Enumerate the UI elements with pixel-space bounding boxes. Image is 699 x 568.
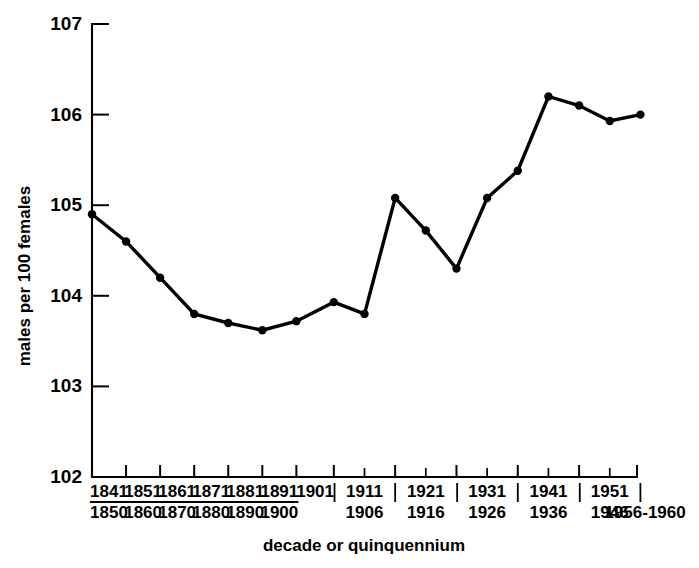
data-point — [544, 92, 552, 100]
data-point — [156, 273, 164, 281]
x-tick-top-label: 1861 — [158, 482, 196, 501]
data-point — [224, 319, 232, 327]
data-point — [514, 167, 522, 175]
x-tick-bottom-label: 1916 — [407, 503, 445, 522]
x-tick-bottom-label: 1850 — [90, 503, 128, 522]
y-axis-title: males per 100 females — [15, 186, 34, 367]
series-markers — [88, 92, 645, 334]
x-axis-bottom-labels: 1850186018701880189019001906191619261936… — [90, 503, 686, 522]
data-point — [292, 317, 300, 325]
x-tick-bottom-label: 1926 — [468, 503, 506, 522]
x-tick-top-label: 1931 — [468, 482, 506, 501]
data-point — [422, 226, 430, 234]
x-tick-top-label: 1871 — [192, 482, 230, 501]
data-point — [606, 117, 614, 125]
y-axis-ticks — [92, 24, 109, 386]
x-tick-bottom-label: 1906 — [346, 503, 384, 522]
data-point — [636, 110, 644, 118]
data-point — [575, 101, 583, 109]
x-axis: 1841185118611871188118911901191119211931… — [90, 465, 686, 522]
x-tick-bottom-label: 1956-1960 — [604, 503, 685, 522]
x-tick-bottom-label: 1870 — [158, 503, 196, 522]
chart-canvas: 102103104105106107 184118511861187118811… — [0, 0, 699, 568]
x-tick-top-label: 1881 — [226, 482, 264, 501]
y-tick-label: 104 — [50, 285, 82, 306]
y-tick-label: 102 — [50, 466, 82, 487]
y-tick-label: 107 — [50, 13, 82, 34]
x-tick-top-label: 1921 — [407, 482, 445, 501]
x-axis-ticks — [126, 465, 637, 477]
x-axis-title: decade or quinquennium — [263, 536, 465, 555]
data-point — [88, 210, 96, 218]
x-tick-top-label: 1851 — [124, 482, 162, 501]
x-tick-top-label: 1841 — [90, 482, 128, 501]
x-tick-top-label: 1951 — [591, 482, 629, 501]
series-line — [92, 96, 640, 330]
x-tick-bottom-label: 1936 — [530, 503, 568, 522]
y-axis-tick-labels: 102103104105106107 — [50, 13, 82, 487]
y-tick-label: 103 — [50, 375, 82, 396]
x-axis-top-labels: 1841185118611871188118911901191119211931… — [90, 482, 629, 501]
data-point — [483, 194, 491, 202]
y-tick-label: 105 — [50, 194, 82, 215]
x-tick-top-label: 1891 — [260, 482, 298, 501]
x-tick-top-label: 1911 — [346, 482, 383, 501]
data-point — [452, 264, 460, 272]
data-point — [258, 326, 266, 334]
x-tick-bottom-label: 1860 — [124, 503, 162, 522]
data-point — [190, 310, 198, 318]
data-point — [122, 237, 130, 245]
x-tick-bottom-label: 1900 — [260, 503, 298, 522]
x-tick-bottom-label: 1890 — [226, 503, 264, 522]
x-tick-top-label: 1901 — [296, 482, 334, 501]
y-tick-label: 106 — [50, 104, 82, 125]
y-axis: 102103104105106107 — [50, 13, 109, 487]
data-point — [330, 298, 338, 306]
data-series — [88, 92, 645, 334]
data-point — [360, 310, 368, 318]
chart-figure: 102103104105106107 184118511861187118811… — [0, 0, 699, 568]
x-tick-bottom-label: 1880 — [192, 503, 230, 522]
x-tick-top-label: 1941 — [530, 482, 568, 501]
data-point — [391, 194, 399, 202]
